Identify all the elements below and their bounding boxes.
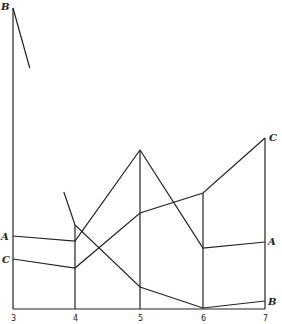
x-tick-label: 5 bbox=[138, 314, 143, 323]
series-label-a: A bbox=[0, 231, 9, 242]
series-a-line bbox=[13, 150, 265, 248]
series-c-line bbox=[13, 138, 265, 268]
series-b-line bbox=[64, 192, 265, 308]
series-label-a: A bbox=[267, 236, 276, 247]
series-label-b: B bbox=[267, 296, 276, 307]
x-tick-label: 7 bbox=[263, 314, 268, 323]
series-b-line bbox=[13, 8, 30, 68]
x-tick-label: 3 bbox=[11, 314, 16, 323]
series-label-c: C bbox=[269, 132, 277, 143]
line-chart: 34567AACCBB bbox=[0, 0, 282, 324]
series-label-b: B bbox=[0, 1, 9, 12]
x-tick-label: 6 bbox=[201, 314, 206, 323]
series-label-c: C bbox=[2, 254, 10, 265]
x-tick-label: 4 bbox=[73, 314, 78, 323]
